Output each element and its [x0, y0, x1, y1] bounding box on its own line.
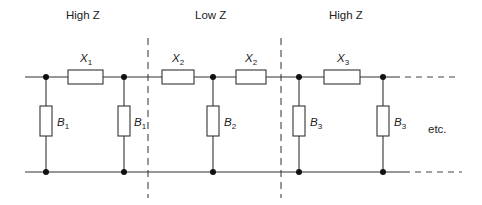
continuation-label: etc. — [428, 123, 447, 135]
junction-dot — [296, 169, 302, 175]
junction-dot — [380, 74, 386, 80]
region-label-high-z-right: High Z — [329, 9, 363, 21]
junction-dot — [210, 169, 216, 175]
junction-dot — [296, 74, 302, 80]
shunt-admittance-box — [293, 106, 305, 136]
shunt-admittance-box — [377, 106, 389, 136]
ladder-network-diagram: High Z Low Z High Z X1 X2 X2 — [0, 0, 482, 205]
series-element-x2-b: X2 — [236, 52, 266, 84]
svg-text:X2: X2 — [171, 52, 185, 67]
svg-text:X3: X3 — [336, 52, 350, 67]
series-impedance-box — [324, 70, 360, 84]
region-label-high-z-left: High Z — [66, 9, 100, 21]
shunt-element-b2: B2 — [207, 77, 237, 172]
svg-text:X1: X1 — [79, 52, 93, 67]
shunt-admittance-box — [40, 106, 52, 136]
junction-dot — [43, 74, 49, 80]
junction-dot — [380, 169, 386, 175]
series-impedance-box — [162, 70, 194, 84]
series-element-x2-a: X2 — [162, 52, 194, 84]
region-label-low-z: Low Z — [195, 9, 226, 21]
junction-dot — [121, 169, 127, 175]
shunt-element-b1-a: B1 — [40, 77, 70, 172]
junction-dot — [43, 169, 49, 175]
series-impedance-box — [68, 70, 103, 84]
svg-text:B1: B1 — [134, 116, 147, 131]
shunt-admittance-box — [118, 106, 130, 136]
junction-dot — [121, 74, 127, 80]
series-impedance-box — [236, 70, 266, 84]
svg-text:B1: B1 — [57, 116, 70, 131]
svg-text:B3: B3 — [394, 116, 407, 131]
series-element-x3: X3 — [324, 52, 360, 84]
junction-dot — [210, 74, 216, 80]
shunt-admittance-box — [207, 106, 219, 136]
shunt-element-b3-a: B3 — [293, 77, 323, 172]
svg-text:B2: B2 — [224, 116, 237, 131]
region-labels: High Z Low Z High Z — [66, 9, 363, 21]
series-element-x1: X1 — [68, 52, 103, 84]
svg-text:X2: X2 — [244, 52, 258, 67]
svg-text:B3: B3 — [310, 116, 323, 131]
shunt-element-b3-b: B3 — [377, 77, 407, 172]
shunt-element-b1-b: B1 — [118, 77, 147, 172]
